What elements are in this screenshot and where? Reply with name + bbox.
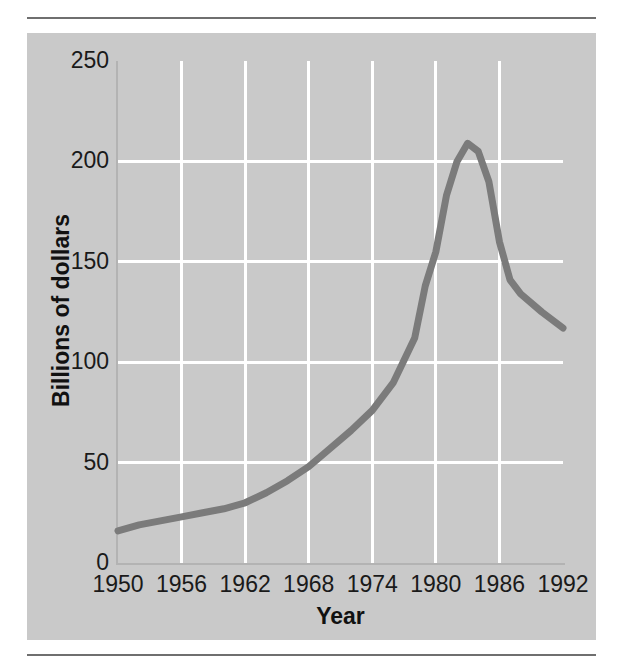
figure-panel: 050100150200250 Billions of dollars 1950… [27,33,596,640]
x-axis-tick-labels: 19501956196219681974198019861992 [118,571,563,599]
y-tick-label-200: 200 [31,149,109,172]
figure-top-rule [27,17,596,19]
y-tick-label-250: 250 [31,49,109,72]
x-axis-title: Year [118,603,563,630]
figure-bottom-rule [27,654,596,656]
x-tick-label-1992: 1992 [523,571,603,597]
y-axis-title: Billions of dollars [48,171,75,451]
line-chart: 050100150200250 Billions of dollars 1950… [27,33,596,640]
figure-page: 050100150200250 Billions of dollars 1950… [0,0,619,672]
y-tick-label-50: 50 [31,451,109,474]
series-line-billions-of-dollars [118,61,563,563]
plot-area [118,61,563,563]
x-axis-line [116,563,565,565]
